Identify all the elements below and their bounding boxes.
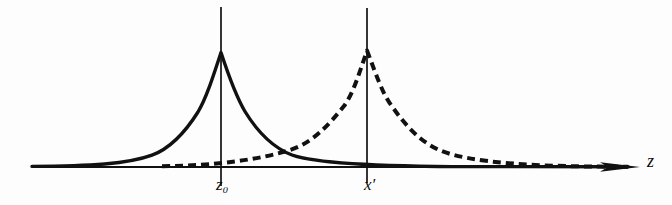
- solid-distribution-curve: [32, 53, 628, 167]
- dashed-distribution-curve: [162, 51, 628, 167]
- tick-label-x-prime: x′: [364, 176, 375, 193]
- tick-label-z0: z₀: [216, 176, 229, 193]
- distribution-plot: [0, 0, 672, 205]
- tick-label-z0-base: z₀: [216, 175, 229, 194]
- z-axis-label: z: [647, 152, 654, 170]
- tick-label-x-prime-base: x′: [364, 175, 375, 194]
- figure-container: z₀ x′ z: [0, 0, 672, 205]
